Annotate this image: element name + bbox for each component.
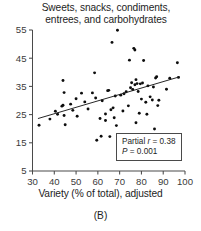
y-tick-label: 35: [16, 81, 27, 92]
data-point: [128, 59, 131, 62]
data-point: [62, 79, 65, 82]
x-axis-label: Variety (% of total), adjusted: [0, 188, 201, 199]
data-point: [113, 116, 116, 119]
data-point: [69, 103, 72, 106]
data-point: [80, 92, 83, 95]
data-point: [112, 106, 115, 109]
data-point: [130, 81, 133, 84]
data-point: [157, 99, 160, 102]
x-tick-label: 40: [49, 176, 60, 186]
regression-line-layer: [38, 77, 180, 119]
data-point: [95, 139, 98, 142]
data-point: [115, 124, 118, 127]
data-point: [136, 82, 139, 85]
y-tick-label: 25: [16, 109, 27, 120]
x-tick-label: 100: [177, 176, 193, 186]
data-point: [156, 104, 159, 107]
data-point: [116, 29, 119, 32]
data-point: [109, 108, 112, 111]
data-point: [91, 91, 94, 94]
data-point: [87, 108, 90, 111]
data-point: [145, 113, 148, 116]
regression-line: [38, 77, 180, 119]
data-point: [152, 86, 155, 89]
data-point: [135, 121, 138, 124]
x-axis: 30405060708090100: [27, 171, 193, 185]
data-point: [71, 109, 74, 112]
y-axis: 51525354555: [16, 24, 33, 176]
data-point: [107, 89, 110, 92]
data-point: [63, 91, 66, 94]
y-tick-label: 5: [21, 165, 26, 176]
data-point: [149, 95, 152, 98]
data-point: [64, 123, 67, 126]
data-point: [140, 98, 143, 101]
data-point: [104, 119, 107, 122]
x-tick-label: 90: [158, 176, 169, 186]
y-tick-label: 55: [16, 24, 27, 35]
y-tick-label: 15: [16, 137, 27, 148]
partial-r-value: = 0.38: [150, 137, 175, 146]
data-point: [155, 75, 158, 78]
data-point: [153, 128, 156, 131]
data-point: [62, 104, 65, 107]
data-point: [133, 49, 136, 52]
partial-r-line: Partial r = 0.38: [122, 137, 177, 147]
data-point: [63, 114, 66, 117]
panel-label: (B): [0, 210, 201, 221]
figure-panel-b: Sweets, snacks, condiments, entrees, and…: [0, 0, 201, 231]
x-tick-label: 60: [93, 176, 104, 186]
data-point: [99, 117, 102, 120]
x-tick-label: 80: [136, 176, 147, 186]
x-tick-label: 70: [114, 176, 125, 186]
p-value: = 0.001: [127, 147, 157, 156]
x-tick-label: 30: [27, 176, 38, 186]
data-point: [127, 104, 130, 107]
data-point: [141, 82, 144, 85]
data-point: [138, 112, 141, 115]
data-point: [93, 71, 96, 74]
data-point: [108, 135, 111, 138]
p-value-line: P = 0.001: [122, 147, 177, 157]
data-point: [100, 135, 103, 138]
y-tick-label: 45: [16, 53, 27, 64]
data-point: [121, 109, 124, 112]
statistics-annotation-box: Partial r = 0.38 P = 0.001: [116, 133, 182, 161]
data-point: [137, 90, 140, 93]
data-point: [54, 110, 57, 113]
data-point: [144, 101, 147, 104]
x-tick-label: 50: [71, 176, 82, 186]
data-point: [75, 97, 78, 100]
data-point: [48, 118, 51, 121]
partial-r-prefix: Partial: [122, 137, 147, 146]
data-point: [135, 78, 138, 81]
data-point: [111, 41, 114, 44]
data-point: [165, 88, 168, 91]
data-point: [104, 113, 107, 116]
data-point: [83, 100, 86, 103]
data-point: [142, 59, 145, 62]
data-point: [176, 61, 179, 64]
data-point: [76, 115, 79, 118]
data-point: [38, 124, 41, 127]
data-point: [94, 97, 97, 100]
data-point: [151, 98, 154, 101]
